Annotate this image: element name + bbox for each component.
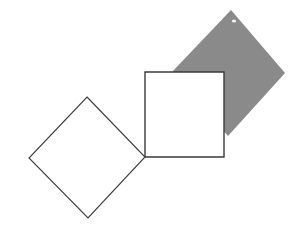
figure-canvas [0, 0, 297, 241]
white-speck-artifact [232, 19, 236, 22]
geometry-svg [0, 0, 297, 241]
upright-square [145, 72, 224, 157]
